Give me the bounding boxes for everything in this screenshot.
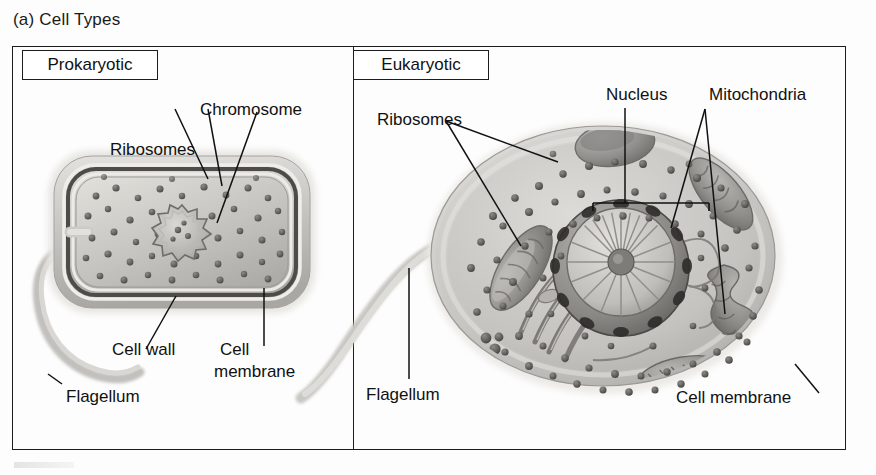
label-ribosomes-eukaryotic: Ribosomes xyxy=(377,110,462,130)
panel-divider xyxy=(353,46,354,450)
panel-tag-prokaryotic: Prokaryotic xyxy=(22,50,158,80)
label-nucleus: Nucleus xyxy=(606,85,667,105)
label-mitochondria: Mitochondria xyxy=(709,85,806,105)
figure-title: (a) Cell Types xyxy=(13,10,120,30)
cell-types-figure: (a) Cell Types Prokaryotic Eukaryotic xyxy=(0,0,876,475)
label-cell-membrane-eukaryotic: Cell membrane xyxy=(676,388,791,408)
panel-tag-eukaryotic: Eukaryotic xyxy=(353,50,489,80)
label-cell-wall: Cell wall xyxy=(112,340,175,360)
label-flagellum-eukaryotic: Flagellum xyxy=(366,385,440,405)
label-flagellum-prokaryotic: Flagellum xyxy=(66,387,140,407)
label-cell-membrane-prokaryotic-line1: Cell xyxy=(220,340,249,360)
label-chromosome: Chromosome xyxy=(200,100,302,120)
label-ribosomes-prokaryotic: Ribosomes xyxy=(110,140,195,160)
label-cell-membrane-prokaryotic-line2: membrane xyxy=(214,362,295,382)
next-figure-sliver xyxy=(14,462,74,468)
